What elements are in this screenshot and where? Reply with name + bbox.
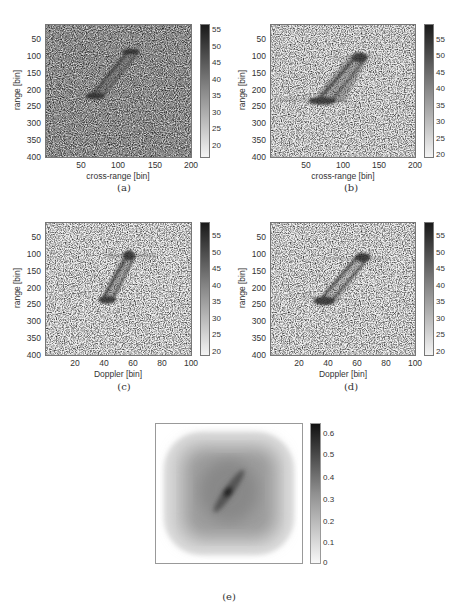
ytick: 150 xyxy=(244,267,266,276)
colorbar-tick: 35 xyxy=(436,298,445,306)
colorbar-tick: 25 xyxy=(436,331,445,339)
x-axis-label: cross-range [bin] xyxy=(86,171,149,181)
xtick: 80 xyxy=(157,359,166,368)
ytick: 150 xyxy=(244,69,266,78)
colorbar-tick: 55 xyxy=(212,232,221,240)
ytick: 350 xyxy=(19,334,41,343)
ytick: 400 xyxy=(244,153,266,162)
xtick: 60 xyxy=(128,359,137,368)
colorbar-tick: 20 xyxy=(212,348,221,356)
ytick: 250 xyxy=(244,102,266,111)
y-axis-label: range [bin] xyxy=(237,65,247,115)
ytick: 50 xyxy=(19,233,41,242)
xtick: 150 xyxy=(372,161,386,170)
ytick: 300 xyxy=(244,119,266,128)
colorbar-tick: 40 xyxy=(436,85,445,93)
ytick: 200 xyxy=(244,284,266,293)
xtick: 60 xyxy=(352,359,361,368)
colorbar-tick: 0 xyxy=(323,559,327,567)
colorbar-tick: 30 xyxy=(212,315,221,323)
ytick: 300 xyxy=(19,119,41,128)
colorbar-tick: 45 xyxy=(436,69,445,77)
x-axis-label: Doppler [bin] xyxy=(319,369,367,379)
colorbar-c xyxy=(200,222,210,356)
xtick: 50 xyxy=(301,161,310,170)
ytick: 100 xyxy=(19,52,41,61)
colorbar-tick: 50 xyxy=(212,249,221,257)
colorbar-tick: 55 xyxy=(212,26,221,34)
colorbar-e xyxy=(310,423,321,564)
range-crossrange-image xyxy=(271,25,415,157)
colorbar-tick: 40 xyxy=(212,76,221,84)
colorbar-tick: 0.6 xyxy=(323,430,334,438)
colorbar-tick: 45 xyxy=(212,59,221,67)
ytick: 350 xyxy=(244,334,266,343)
colorbar-tick: 50 xyxy=(436,249,445,257)
colorbar-tick: 25 xyxy=(212,125,221,133)
ytick: 400 xyxy=(19,351,41,360)
xtick: 20 xyxy=(294,359,303,368)
colorbar-tick: 20 xyxy=(212,142,221,150)
ytick: 300 xyxy=(19,317,41,326)
colorbar-tick: 55 xyxy=(436,232,445,240)
ytick: 150 xyxy=(19,69,41,78)
xtick: 150 xyxy=(148,161,162,170)
xtick: 100 xyxy=(111,161,125,170)
caption-b: (b) xyxy=(344,182,358,193)
heatmap-b xyxy=(270,24,416,158)
colorbar-tick: 45 xyxy=(212,265,221,273)
xtick: 100 xyxy=(336,161,350,170)
colorbar-tick: 30 xyxy=(212,109,221,117)
colorbar-tick: 50 xyxy=(436,52,445,60)
colorbar-a xyxy=(200,24,210,158)
ytick: 100 xyxy=(19,250,41,259)
colorbar-tick: 20 xyxy=(436,348,445,356)
colorbar-tick: 0.1 xyxy=(323,539,334,547)
colorbar-tick: 25 xyxy=(212,331,221,339)
colorbar-d xyxy=(424,222,434,356)
xtick: 100 xyxy=(184,359,198,368)
xtick: 50 xyxy=(76,161,85,170)
ytick: 350 xyxy=(244,136,266,145)
xtick: 80 xyxy=(381,359,390,368)
colorbar-tick: 25 xyxy=(436,135,445,143)
weighting-image xyxy=(156,424,302,563)
ytick: 400 xyxy=(244,351,266,360)
ytick: 250 xyxy=(19,102,41,111)
ytick: 100 xyxy=(244,52,266,61)
ytick: 250 xyxy=(244,300,266,309)
colorbar-tick: 0.3 xyxy=(323,496,334,504)
colorbar-tick: 35 xyxy=(436,102,445,110)
colorbar-tick: 45 xyxy=(436,265,445,273)
colorbar-tick: 50 xyxy=(212,43,221,51)
colorbar-tick: 30 xyxy=(436,118,445,126)
caption-e: (e) xyxy=(222,591,236,602)
heatmap-e xyxy=(155,423,303,564)
x-axis-label: cross-range [bin] xyxy=(311,171,374,181)
heatmap-c xyxy=(45,222,192,356)
colorbar-tick: 35 xyxy=(212,298,221,306)
y-axis-label: range [bin] xyxy=(12,65,22,115)
colorbar-tick: 0.4 xyxy=(323,474,334,482)
heatmap-d xyxy=(270,222,416,356)
xtick: 200 xyxy=(184,161,198,170)
ytick: 50 xyxy=(19,35,41,44)
x-axis-label: Doppler [bin] xyxy=(94,369,142,379)
caption-a: (a) xyxy=(117,182,131,193)
colorbar-tick: 30 xyxy=(436,315,445,323)
caption-d: (d) xyxy=(344,381,358,392)
colorbar-tick: 0.5 xyxy=(323,451,334,459)
ytick: 100 xyxy=(244,250,266,259)
y-axis-label: range [bin] xyxy=(12,263,22,313)
ytick: 250 xyxy=(19,300,41,309)
xtick: 200 xyxy=(408,161,422,170)
ytick: 350 xyxy=(19,136,41,145)
xtick: 100 xyxy=(408,359,422,368)
colorbar-tick: 0.2 xyxy=(323,518,334,526)
heatmap-a xyxy=(45,24,192,158)
colorbar-b xyxy=(424,24,434,158)
caption-c: (c) xyxy=(117,381,130,392)
range-doppler-image xyxy=(46,223,191,355)
range-crossrange-image xyxy=(46,25,191,157)
ytick: 200 xyxy=(19,86,41,95)
